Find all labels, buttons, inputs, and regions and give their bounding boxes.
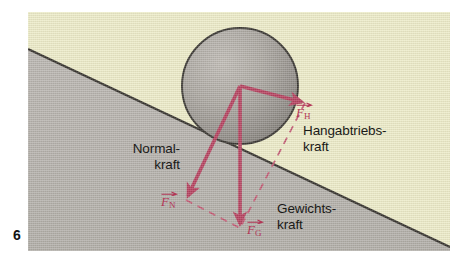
label-gewichtskraft-line2: kraft [277,217,336,233]
vector-label-fg: FG [247,219,265,238]
vector-label-fh-subscript: H [304,111,311,121]
overarrow-icon-fn [161,191,179,196]
label-normalkraft-line1: Normal- [133,141,180,156]
figure-plate [28,12,450,251]
physics-diagram-canvas [28,12,450,251]
overarrow-icon-fh [296,102,314,107]
vector-label-fn-subscript: N [169,200,176,210]
figure-page: Hangabtriebs-kraft Normal-kraft Gewichts… [0,0,457,269]
label-gewichtskraft-line1: Gewichts- [277,201,336,216]
vector-label-fg-base: F [247,222,255,237]
figure-number: 6 [13,227,21,243]
label-normalkraft-line2: kraft [108,157,180,173]
label-hangabtriebskraft-line1: Hangabtriebs- [303,123,387,138]
overarrow-icon-fg [247,219,265,224]
label-normalkraft: Normal-kraft [108,141,180,172]
vector-label-fn-base: F [161,194,169,209]
label-hangabtriebskraft: Hangabtriebs-kraft [303,123,387,154]
vector-label-fg-subscript: G [255,228,262,238]
vector-label-fh: FH [296,102,314,121]
label-hangabtriebskraft-line2: kraft [303,139,387,155]
vector-label-fh-base: F [296,105,304,120]
label-gewichtskraft: Gewichts-kraft [277,201,336,232]
vector-label-fn: FN [161,191,179,210]
